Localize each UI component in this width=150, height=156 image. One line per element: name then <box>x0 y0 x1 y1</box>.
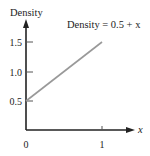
y-tick-label-0.5: 0.5 <box>10 96 23 107</box>
y-axis-label: Density <box>10 7 43 18</box>
density-chart: Density Density = 0.5 + x 1.5 1.0 0.5 0 … <box>0 0 150 156</box>
y-tick-label-1.5: 1.5 <box>10 37 23 48</box>
y-tick-label-1.0: 1.0 <box>10 67 23 78</box>
x-axis-arrow-icon <box>126 127 135 133</box>
x-tick-label-1: 1 <box>100 139 105 150</box>
x-tick-label-0: 0 <box>24 139 29 150</box>
density-line <box>26 42 102 101</box>
y-axis-arrow-icon <box>23 19 29 28</box>
annotation-formula: Density = 0.5 + x <box>67 19 141 30</box>
x-axis-label: x <box>137 124 143 135</box>
